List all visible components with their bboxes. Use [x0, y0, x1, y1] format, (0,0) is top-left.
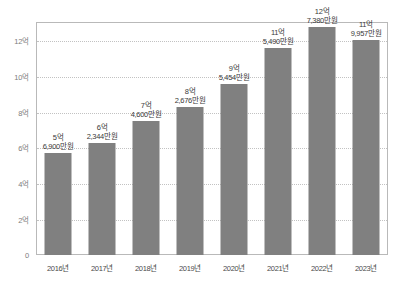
x-axis-tick-label: 2023년 — [355, 262, 377, 273]
y-axis-tick-label: 4억 — [18, 178, 29, 189]
bar-value-label: 6억2,344만원 — [87, 123, 118, 141]
bar-value-label: 7억4,600만원 — [131, 101, 162, 119]
bar-value-label: 8억2,676만원 — [175, 87, 206, 105]
y-axis-tick-label: 2억 — [18, 214, 29, 225]
bar-value-label-eok: 11억 — [263, 28, 294, 37]
bar-group: 5억6,900만원 — [36, 22, 80, 255]
bar-group: 11억5,490만원 — [256, 22, 300, 255]
bars-layer: 5억6,900만원6억2,344만원7억4,600만원8억2,676만원9억5,… — [36, 22, 388, 255]
bar — [221, 84, 248, 255]
bar-value-label: 11억9,957만원 — [351, 20, 382, 38]
x-axis-tick-label: 2019년 — [179, 262, 201, 273]
y-axis-tick-label: 6억 — [18, 142, 29, 153]
x-axis-labels: 2016년2017년2018년2019년2020년2021년2022년2023년 — [36, 258, 388, 278]
bar-value-label-man: 4,600만원 — [131, 110, 162, 119]
bar-value-label-man: 2,344만원 — [87, 132, 118, 141]
y-axis-labels: 02억4억6억8억10억12억 — [0, 22, 32, 255]
bar-group: 11억9,957만원 — [344, 22, 388, 255]
bar-value-label-eok: 5억 — [43, 133, 74, 142]
x-axis-tick-label: 2020년 — [223, 262, 245, 273]
bar — [177, 107, 204, 255]
bar-value-label-man: 6,900만원 — [43, 142, 74, 151]
bar-group: 12억7,380만원 — [300, 22, 344, 255]
x-axis-tick-label: 2017년 — [91, 262, 113, 273]
bar — [265, 48, 292, 255]
y-axis-tick-label: 0 — [25, 251, 29, 260]
bar-value-label: 11억5,490만원 — [263, 28, 294, 46]
x-axis-tick-label: 2016년 — [47, 262, 69, 273]
bar — [309, 27, 336, 255]
bar-group: 8억2,676만원 — [168, 22, 212, 255]
bar-value-label: 5억6,900만원 — [43, 133, 74, 151]
bar-value-label: 9억5,454만원 — [219, 64, 250, 82]
x-axis-tick-label: 2021년 — [267, 262, 289, 273]
y-axis-tick-label: 8억 — [18, 106, 29, 117]
bar-value-label-eok: 12억 — [307, 7, 338, 16]
bar-value-label-eok: 7억 — [131, 101, 162, 110]
y-axis-tick-label: 10억 — [14, 70, 29, 81]
bar-value-label-eok: 11억 — [351, 20, 382, 29]
bar — [353, 40, 380, 255]
bar-value-label-man: 5,490만원 — [263, 37, 294, 46]
bar-value-label-man: 9,957만원 — [351, 29, 382, 38]
bar-chart: 02억4억6억8억10억12억 5억6,900만원6억2,344만원7억4,60… — [0, 0, 401, 297]
bar-value-label-man: 2,676만원 — [175, 96, 206, 105]
bar — [133, 121, 160, 255]
y-axis-tick-label: 12억 — [14, 34, 29, 45]
x-axis-tick-label: 2018년 — [135, 262, 157, 273]
bar — [45, 153, 72, 255]
bar — [89, 143, 116, 255]
bar-value-label-man: 7,380만원 — [307, 16, 338, 25]
bar-value-label-eok: 9억 — [219, 64, 250, 73]
bar-value-label-man: 5,454만원 — [219, 73, 250, 82]
x-axis-tick-label: 2022년 — [311, 262, 333, 273]
bar-value-label-eok: 6억 — [87, 123, 118, 132]
bar-value-label-eok: 8억 — [175, 87, 206, 96]
bar-value-label: 12억7,380만원 — [307, 7, 338, 25]
bar-group: 9억5,454만원 — [212, 22, 256, 255]
bar-group: 6억2,344만원 — [80, 22, 124, 255]
bar-group: 7억4,600만원 — [124, 22, 168, 255]
